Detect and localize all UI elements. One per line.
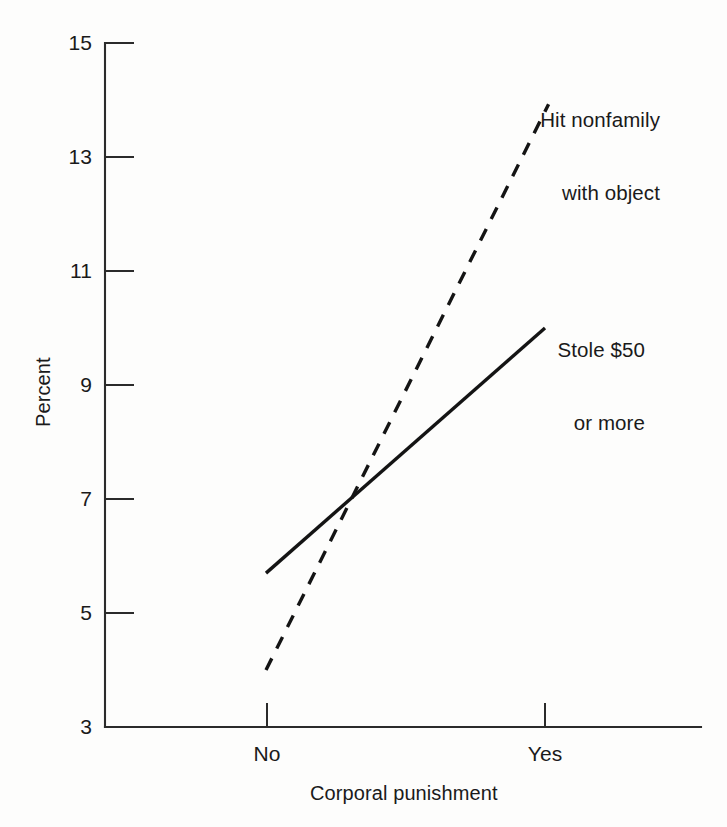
annotation-stole-50-line1: Stole $50 <box>490 338 645 362</box>
x-axis-title: Corporal punishment <box>310 782 498 806</box>
y-tick-label-3: 3 <box>46 715 92 740</box>
x-tick-label-yes: Yes <box>490 742 600 767</box>
annotation-stole-50-line2: or more <box>490 411 645 435</box>
x-tick-label-no: No <box>212 742 322 767</box>
y-tick-label-7: 7 <box>46 487 92 512</box>
y-tick-label-5: 5 <box>46 601 92 626</box>
y-tick-label-15: 15 <box>46 31 92 56</box>
annotation-stole-50-or-more: Stole $50 or more <box>490 290 645 484</box>
annotation-hit-nonfamily-with-object: Hit nonfamily with object <box>490 60 660 254</box>
annotation-hit-nonfamily-line1: Hit nonfamily <box>490 108 660 132</box>
annotation-hit-nonfamily-line2: with object <box>490 181 660 205</box>
y-tick-label-13: 13 <box>46 145 92 170</box>
y-axis-title: Percent <box>32 357 56 427</box>
y-tick-label-11: 11 <box>46 259 92 284</box>
figure-canvas: 15 13 11 9 7 5 3 No Yes Percent Corporal… <box>0 0 727 827</box>
